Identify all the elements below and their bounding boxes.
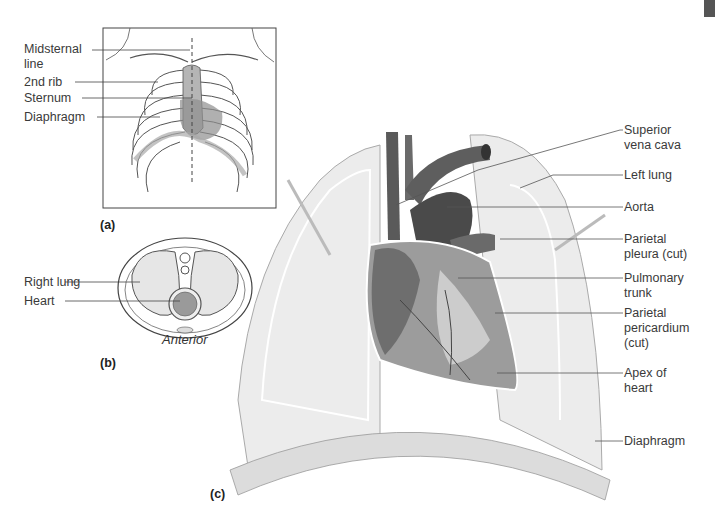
- panel-tag-b: (b): [100, 356, 116, 370]
- label-apex-of-heart: Apex of heart: [624, 366, 666, 396]
- label-parietal-pericardium: Parietal pericardium (cut): [624, 306, 689, 351]
- label-pulmonary-trunk: Pulmonary trunk: [624, 271, 684, 301]
- label-parietal-pleura: Parietal pleura (cut): [624, 232, 687, 262]
- anatomy-illustration: [0, 0, 715, 524]
- orientation-anterior: Anterior: [162, 332, 208, 347]
- panel-b-cross-section-drawing: [65, 238, 252, 338]
- label-heart: Heart: [24, 294, 55, 309]
- label-diaphragm-c: Diaphragm: [624, 434, 685, 449]
- panel-tag-a: (a): [100, 218, 115, 232]
- panel-tag-c: (c): [210, 487, 225, 501]
- label-superior-vena-cava: Superior vena cava: [624, 123, 681, 153]
- label-diaphragm-a: Diaphragm: [24, 110, 85, 125]
- label-sternum: Sternum: [24, 91, 71, 106]
- label-2nd-rib: 2nd rib: [24, 75, 62, 90]
- panel-a-thorax-drawing: [75, 28, 276, 208]
- label-midsternal-line: Midsternal line: [24, 42, 82, 72]
- panel-c-heart-drawing: [230, 130, 623, 500]
- label-right-lung: Right lung: [24, 275, 80, 290]
- label-aorta: Aorta: [624, 200, 654, 215]
- label-left-lung: Left lung: [624, 168, 672, 183]
